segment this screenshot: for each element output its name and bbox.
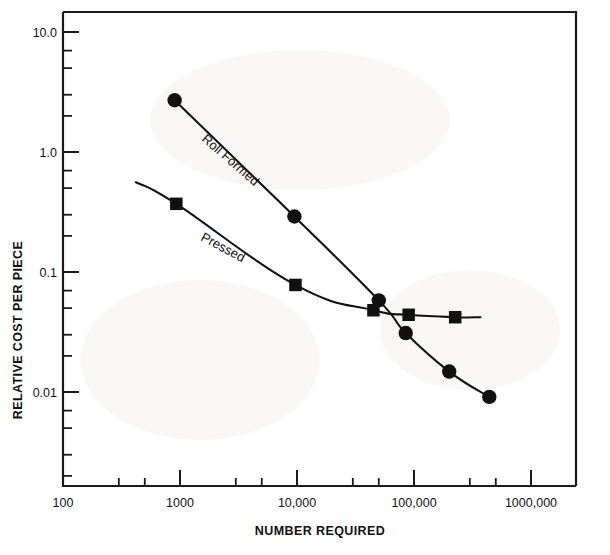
y-tick-label: 1.0 xyxy=(40,146,57,160)
y-axis-title: RELATIVE COST PER PIECE xyxy=(11,241,25,419)
data-point-circle xyxy=(399,326,413,340)
data-point-circle xyxy=(442,364,456,378)
data-point-square xyxy=(289,279,302,292)
data-point-square xyxy=(449,311,462,324)
x-tick-label: 100 xyxy=(53,496,74,510)
data-point-square xyxy=(170,198,183,211)
data-point-circle xyxy=(287,209,301,223)
chart-figure: 10.01.00.10.01 100100010,000100,0001000,… xyxy=(0,0,610,555)
data-point-circle xyxy=(167,93,181,107)
x-tick-label: 100,000 xyxy=(391,496,436,510)
x-tick-label: 1000,000 xyxy=(505,496,557,510)
y-tick-label: 0.1 xyxy=(40,266,57,280)
data-point-square xyxy=(402,309,415,322)
y-tick-label: 10.0 xyxy=(33,26,57,40)
log-log-cost-chart: 10.01.00.10.01 100100010,000100,0001000,… xyxy=(0,0,610,555)
y-tick-label: 0.01 xyxy=(33,386,57,400)
data-point-circle xyxy=(482,390,496,404)
x-tick-label: 1000 xyxy=(166,496,194,510)
x-tick-label: 10,000 xyxy=(278,496,316,510)
data-point-square xyxy=(367,304,380,317)
x-axis-title: NUMBER REQUIRED xyxy=(255,524,385,538)
